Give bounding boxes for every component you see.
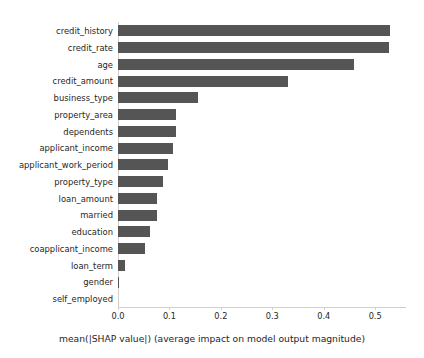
bar bbox=[118, 143, 173, 154]
bar-row: married bbox=[118, 207, 406, 224]
bar bbox=[118, 193, 157, 204]
shap-feature-importance-figure: credit_historycredit_rateagecredit_amoun… bbox=[0, 0, 424, 358]
bar-row: loan_term bbox=[118, 257, 406, 274]
y-axis-tick-label: property_type bbox=[54, 177, 113, 187]
bar-row: self_employed bbox=[118, 291, 406, 308]
bar-row: age bbox=[118, 56, 406, 73]
y-axis-tick-label: education bbox=[71, 227, 113, 237]
bar bbox=[118, 25, 390, 36]
bar bbox=[118, 76, 288, 87]
y-axis-tick-label: self_employed bbox=[53, 294, 113, 304]
bar-row: credit_amount bbox=[118, 73, 406, 90]
y-axis-tick-label: credit_history bbox=[56, 26, 113, 36]
bar-row: business_type bbox=[118, 90, 406, 107]
bar-row: gender bbox=[118, 274, 406, 291]
x-axis-tick-mark bbox=[272, 307, 273, 310]
bar-row: education bbox=[118, 224, 406, 241]
x-axis-tick-label: 0.5 bbox=[369, 311, 382, 321]
y-axis-tick-label: age bbox=[97, 60, 113, 70]
bar bbox=[118, 226, 150, 237]
y-axis-tick-label: credit_amount bbox=[53, 76, 113, 86]
bar-row: coapplicant_income bbox=[118, 241, 406, 258]
y-axis-tick-label: loan_amount bbox=[59, 194, 113, 204]
x-axis-tick-mark bbox=[118, 307, 119, 310]
bar bbox=[118, 243, 145, 254]
bar-row: credit_rate bbox=[118, 39, 406, 56]
plot-area: credit_historycredit_rateagecredit_amoun… bbox=[118, 22, 406, 307]
y-axis-tick-label: dependents bbox=[63, 127, 113, 137]
bar bbox=[118, 92, 198, 103]
bar bbox=[118, 42, 389, 53]
x-axis-tick-mark bbox=[169, 307, 170, 310]
x-axis-tick-label: 0.3 bbox=[266, 311, 279, 321]
y-axis-tick-label: gender bbox=[83, 277, 113, 287]
x-axis-tick-label: 0.4 bbox=[317, 311, 330, 321]
bar-row: applicant_income bbox=[118, 140, 406, 157]
y-axis-tick-label: business_type bbox=[54, 93, 113, 103]
bar bbox=[118, 176, 163, 187]
y-axis-tick-label: coapplicant_income bbox=[30, 244, 113, 254]
bar bbox=[118, 260, 125, 271]
bar-row: applicant_work_period bbox=[118, 157, 406, 174]
y-axis-tick-label: applicant_work_period bbox=[19, 160, 113, 170]
y-axis-tick-label: property_area bbox=[54, 110, 113, 120]
x-axis-tick-mark bbox=[375, 307, 376, 310]
x-axis-tick-mark bbox=[221, 307, 222, 310]
bar-row: loan_amount bbox=[118, 190, 406, 207]
caption-fragment bbox=[6, 348, 266, 356]
x-axis-tick-label: 0.1 bbox=[163, 311, 176, 321]
bar bbox=[118, 159, 168, 170]
x-axis-tick-mark bbox=[324, 307, 325, 310]
bar-row: property_area bbox=[118, 106, 406, 123]
x-axis-tick-label: 0.0 bbox=[111, 311, 124, 321]
x-axis-tick-label: 0.2 bbox=[214, 311, 227, 321]
bar bbox=[118, 210, 157, 221]
bar-row: property_type bbox=[118, 173, 406, 190]
y-axis-tick-label: credit_rate bbox=[68, 43, 113, 53]
bar bbox=[118, 109, 176, 120]
y-axis-tick-label: married bbox=[80, 210, 113, 220]
bar bbox=[118, 126, 176, 137]
y-axis-tick-label: applicant_income bbox=[39, 143, 113, 153]
bar bbox=[118, 277, 119, 288]
x-axis-title: mean(|SHAP value|) (average impact on mo… bbox=[0, 333, 424, 344]
axes-region: credit_historycredit_rateagecredit_amoun… bbox=[118, 22, 406, 307]
bar-row: credit_history bbox=[118, 23, 406, 40]
bar bbox=[118, 59, 354, 70]
y-axis-tick-label: loan_term bbox=[71, 261, 113, 271]
bar-row: dependents bbox=[118, 123, 406, 140]
